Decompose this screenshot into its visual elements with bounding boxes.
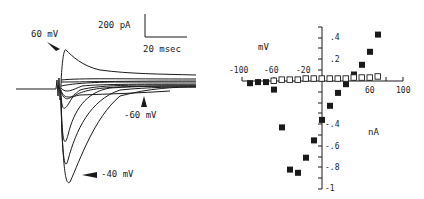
data-point xyxy=(247,80,253,86)
data-point xyxy=(335,76,341,82)
trace-annotations: 60 mV -60 mV -40 mV xyxy=(31,29,157,179)
data-point xyxy=(343,76,349,82)
data-point xyxy=(271,87,277,93)
svg-text:.2: .2 xyxy=(330,55,340,64)
data-point xyxy=(375,32,381,38)
svg-text:-.4: -.4 xyxy=(325,120,340,129)
svg-text:60: 60 xyxy=(365,86,375,95)
data-point xyxy=(311,76,317,82)
data-point xyxy=(351,75,357,81)
svg-text:-100: -100 xyxy=(229,66,248,75)
annotation-neg60mv: -60 mV xyxy=(124,110,157,120)
data-point xyxy=(287,167,293,173)
arrow-neg60mv-icon xyxy=(141,96,147,107)
data-point xyxy=(327,103,333,109)
data-point xyxy=(303,76,309,82)
data-point xyxy=(295,170,301,176)
scale-bar: 200 pA 20 msec xyxy=(98,14,187,54)
figure: 200 pA 20 msec 60 mV -60 mV -40 mV -100 … xyxy=(0,0,424,199)
data-point xyxy=(319,117,325,123)
data-point xyxy=(367,49,373,55)
arrow-neg40mv-icon xyxy=(82,172,97,178)
data-point xyxy=(311,137,317,143)
y-axis-label: nA xyxy=(368,127,379,137)
data-point xyxy=(279,124,285,130)
svg-text:-.6: -.6 xyxy=(325,142,340,151)
arrow-60mv-icon xyxy=(47,42,60,51)
svg-text:100: 100 xyxy=(396,86,411,95)
data-point xyxy=(367,75,373,81)
svg-text:.4: .4 xyxy=(330,33,340,42)
x-axis-label: mV xyxy=(258,42,269,52)
series-peak-current xyxy=(247,32,381,176)
svg-text:-.8: -.8 xyxy=(325,163,340,172)
current-traces-panel xyxy=(16,50,196,183)
data-point xyxy=(327,76,333,82)
data-point xyxy=(271,78,277,84)
data-point xyxy=(303,155,309,161)
data-point xyxy=(335,90,341,96)
data-point xyxy=(343,81,349,87)
annotation-neg40mv: -40 mV xyxy=(101,169,134,179)
svg-text:-60: -60 xyxy=(264,66,279,75)
data-point xyxy=(359,62,365,68)
scale-time-label: 20 msec xyxy=(143,44,181,54)
scale-current-label: 200 pA xyxy=(98,20,131,30)
data-point xyxy=(359,75,365,81)
y-tick-labels: .4 .2 -.4 -.6 -.8 -1 xyxy=(325,33,340,193)
svg-text:-1: -1 xyxy=(325,184,335,193)
data-point xyxy=(255,79,261,85)
data-point xyxy=(295,77,301,83)
data-point xyxy=(319,76,325,82)
iv-plot-panel: -100 -60 -20 60 100 .4 .2 -.4 -.6 -.8 -1… xyxy=(229,27,411,193)
series-steady-current xyxy=(271,74,381,84)
data-point xyxy=(263,79,269,85)
data-point xyxy=(375,74,381,80)
data-point xyxy=(279,77,285,83)
data-point xyxy=(287,77,293,83)
annotation-60mv: 60 mV xyxy=(31,29,59,39)
svg-text:-20: -20 xyxy=(296,66,311,75)
